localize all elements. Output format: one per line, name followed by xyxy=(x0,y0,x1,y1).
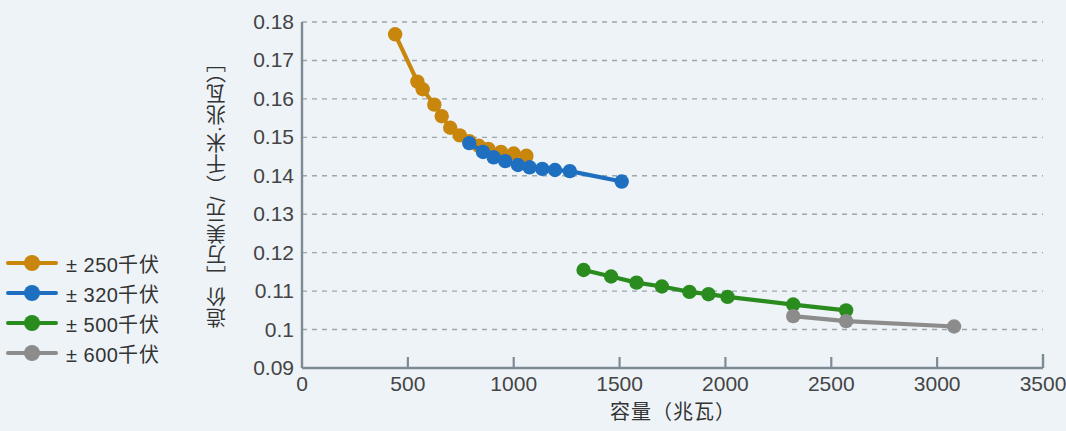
y-axis-tick-label: 0.11 xyxy=(234,279,294,303)
series-data-point xyxy=(576,263,590,277)
legend-circle-line-marker xyxy=(6,313,58,333)
y-axis-tick-label: 0.15 xyxy=(234,125,294,149)
series-data-point xyxy=(415,82,429,96)
y-axis-tick-label: 0.13 xyxy=(234,202,294,226)
legend-marker-dot xyxy=(24,345,40,361)
legend-circle-line-marker xyxy=(6,283,58,303)
y-axis-tick-labels: 0.090.10.110.120.130.140.150.160.170.18 xyxy=(232,0,294,431)
x-axis-tick-label: 3500 xyxy=(1020,372,1066,396)
series-data-point xyxy=(535,162,549,176)
x-axis-tick-label: 2000 xyxy=(702,372,749,396)
series-data-point xyxy=(839,314,853,328)
series-data-point xyxy=(604,269,618,283)
legend-item-label: ± 500千伏 xyxy=(58,309,159,338)
legend-item[interactable]: ± 320千伏 xyxy=(6,278,196,308)
legend-item[interactable]: ± 250千伏 xyxy=(6,248,196,278)
series-3 xyxy=(576,263,853,318)
x-axis-tick-label: 1500 xyxy=(596,372,643,396)
series-data-point xyxy=(720,290,734,304)
legend-marker-dot xyxy=(24,255,40,271)
legend-item-label: ± 320千伏 xyxy=(58,279,159,308)
series-line xyxy=(584,270,847,310)
series-data-point xyxy=(548,163,562,177)
series-data-point xyxy=(563,164,577,178)
series-data-point xyxy=(498,154,512,168)
x-axis-title: 容量（兆瓦） xyxy=(302,396,1044,425)
legend-circle-line-marker xyxy=(6,343,58,363)
y-axis-tick-label: 0.18 xyxy=(234,10,294,34)
x-axis-tick-label: 0 xyxy=(296,372,308,396)
y-axis-tick-label: 0.14 xyxy=(234,164,294,188)
series-data-point xyxy=(655,279,669,293)
y-axis-title: 造价［万美元/（千米·兆瓦）］ xyxy=(197,0,237,378)
legend-item[interactable]: ± 600千伏 xyxy=(6,338,196,368)
series-data-point xyxy=(522,160,536,174)
series-data-point xyxy=(614,174,628,188)
legend-circle-line-marker xyxy=(6,253,58,273)
y-axis-tick-label: 0.17 xyxy=(234,48,294,72)
series-data-point xyxy=(786,309,800,323)
legend-item-label: ± 250千伏 xyxy=(58,249,159,278)
x-axis-tick-label: 500 xyxy=(390,372,425,396)
legend-item[interactable]: ± 500千伏 xyxy=(6,308,196,338)
y-axis-tick-label: 0.09 xyxy=(234,356,294,380)
legend-item-label: ± 600千伏 xyxy=(58,339,159,368)
series-line xyxy=(793,316,954,326)
y-axis-tick-label: 0.16 xyxy=(234,87,294,111)
series-1 xyxy=(388,27,534,163)
series-data-point xyxy=(388,27,402,41)
y-axis-tick-label: 0.12 xyxy=(234,241,294,265)
series-data-point xyxy=(462,136,476,150)
series-data-point xyxy=(682,285,696,299)
legend-marker-dot xyxy=(24,315,40,331)
x-axis-tick-label: 2500 xyxy=(808,372,855,396)
series-data-point xyxy=(435,109,449,123)
x-axis-tick-label: 3000 xyxy=(914,372,961,396)
series-data-point xyxy=(629,275,643,289)
series-data-point xyxy=(947,319,961,333)
x-axis-tick-label: 1000 xyxy=(490,372,537,396)
chart-legend: ± 250千伏± 320千伏± 500千伏± 600千伏 xyxy=(6,248,196,368)
y-axis-tick-label: 0.1 xyxy=(234,318,294,342)
legend-marker-dot xyxy=(24,285,40,301)
series-data-point xyxy=(701,287,715,301)
